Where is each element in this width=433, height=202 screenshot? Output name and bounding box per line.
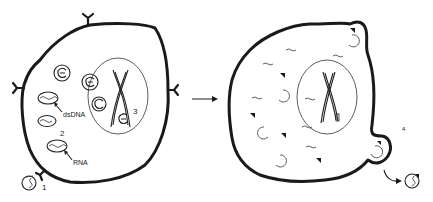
capsid-icon — [92, 97, 106, 111]
arrow-rna — [66, 152, 72, 160]
right-cell-membrane — [229, 22, 390, 182]
dsdna-vesicle-1 — [38, 92, 58, 104]
virion-released — [405, 174, 419, 188]
right-cell: 4 — [229, 22, 419, 188]
release-arrow — [384, 170, 398, 181]
receptor-bottom — [36, 170, 45, 180]
rna-vesicle — [47, 140, 67, 152]
label-dsdna: dsDNA — [63, 111, 86, 118]
label-step-2: 2 — [60, 129, 65, 138]
rna-fragments — [252, 49, 343, 148]
right-nucleus — [297, 60, 357, 134]
transition-arrow — [192, 96, 218, 102]
dsdna-vesicle-2 — [38, 116, 56, 127]
left-cell: dsDNA 2 RNA 3 — [13, 14, 178, 192]
integrated-capsid-icon — [119, 114, 127, 124]
label-rna: RNA — [73, 159, 88, 166]
label-step-3: 3 — [133, 107, 138, 116]
capsid-icon — [82, 74, 98, 90]
label-step-4: 4 — [402, 126, 406, 132]
diagram-canvas: dsDNA 2 RNA 3 — [0, 0, 433, 202]
protein-fragments — [250, 28, 355, 163]
budding-virion — [371, 141, 383, 158]
label-step-1: 1 — [42, 183, 47, 192]
release-arrowhead — [396, 178, 402, 184]
virion-entering — [22, 176, 36, 190]
nucleus: 3 — [82, 58, 148, 134]
capsid-shells — [258, 35, 360, 167]
capsid-icon — [54, 65, 70, 81]
